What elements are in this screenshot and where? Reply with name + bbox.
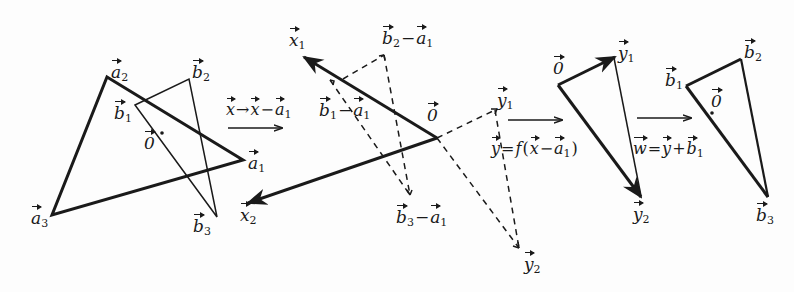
label-b1-result: b1 [665, 72, 683, 91]
label-b3: b3 [193, 218, 211, 237]
label-b3-result: b3 [756, 207, 774, 226]
edge-y1-y2 [614, 58, 641, 196]
transform-label-1: x→x−a1 [226, 102, 291, 120]
triangle-b-minus-a1 [330, 55, 410, 195]
label-y1-dashed: y1 [497, 92, 514, 111]
label-b1: b1 [114, 105, 132, 124]
label-b3-minus-a1: b3−a1 [396, 209, 447, 228]
label-y2-dashed: y2 [524, 256, 541, 275]
label-origin-translated: 0 [427, 107, 438, 124]
label-a2: a2 [111, 64, 128, 83]
transform-label-3: w=y+b1 [633, 141, 704, 159]
dashed-arrowhead-b2 [379, 55, 385, 60]
label-y2: y2 [633, 206, 650, 225]
origin-dot-result [710, 111, 714, 115]
label-a3: a3 [31, 210, 48, 229]
label-origin: 0 [144, 135, 155, 152]
diagram-canvas: a2 b2 b1 0 a1 a3 b3 x→x−a1 x1 b2−a1 b1−a… [0, 0, 794, 292]
label-x1: x1 [289, 32, 306, 51]
label-origin-result: 0 [711, 93, 722, 110]
label-b2-minus-a1: b2−a1 [382, 30, 433, 49]
transform-label-2: y=f(x−a1) [491, 141, 579, 159]
label-b1-minus-a1: b1−a1 [319, 102, 370, 121]
label-a1: a1 [248, 155, 265, 174]
label-y1: y1 [618, 45, 635, 64]
triangle-b-result [686, 59, 768, 197]
dashed-y-vectors [437, 110, 519, 248]
vector-y1 [558, 57, 615, 85]
label-b2: b2 [192, 64, 210, 83]
origin-dot [160, 131, 164, 135]
label-x2: x2 [240, 207, 257, 226]
label-origin-mapped: 0 [553, 60, 564, 77]
dashed-arrowhead-b3 [407, 190, 412, 195]
label-b2-result: b2 [744, 44, 762, 63]
